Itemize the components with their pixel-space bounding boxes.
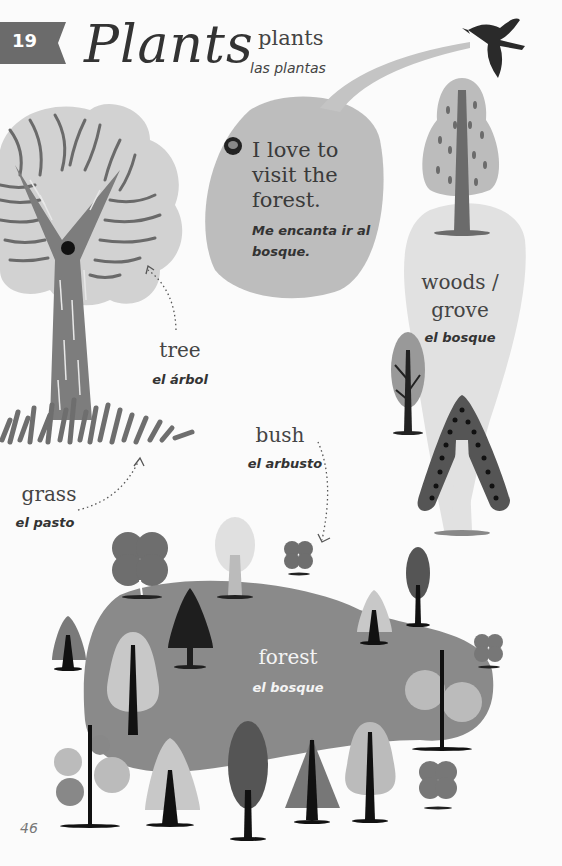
woods-label-english-2: grove xyxy=(410,298,510,322)
phrase-spanish: Me encanta ir al bosque. xyxy=(252,220,372,262)
bush-label-spanish: el arbusto xyxy=(235,456,335,471)
small-dotted-tree xyxy=(391,332,425,435)
bush-bottom-right xyxy=(419,761,457,810)
dotted-pine-left xyxy=(52,616,86,671)
grass-label-spanish: el pasto xyxy=(10,515,80,530)
bush-label-english: bush xyxy=(250,423,310,447)
oval-tree-bottom xyxy=(228,721,268,841)
tree-label-english: tree xyxy=(150,338,210,362)
bush-illustration-small xyxy=(284,541,313,576)
page-title: Plants xyxy=(84,14,254,74)
tree-label-spanish: el árbol xyxy=(140,372,220,387)
grass-pointer-arrow xyxy=(78,462,138,510)
title-spanish: las plantas xyxy=(250,60,326,76)
forest-label-english: forest xyxy=(248,645,328,669)
oval-tree-dark xyxy=(406,547,430,627)
grass-label-english: grass xyxy=(14,482,84,506)
woods-label-spanish: el bosque xyxy=(410,330,510,345)
grass-illustration xyxy=(2,400,192,442)
woods-label-english-1: woods / xyxy=(410,270,510,294)
forest-label-spanish: el bosque xyxy=(243,680,333,695)
title-english: plants xyxy=(258,26,323,50)
page-number: 46 xyxy=(20,820,38,836)
bird-icon xyxy=(462,19,525,78)
phrase-english: I love to visit the forest. xyxy=(252,138,372,213)
lesson-number: 19 xyxy=(12,30,37,51)
page: 19 Plants plants las plantas I love to v… xyxy=(0,0,562,866)
